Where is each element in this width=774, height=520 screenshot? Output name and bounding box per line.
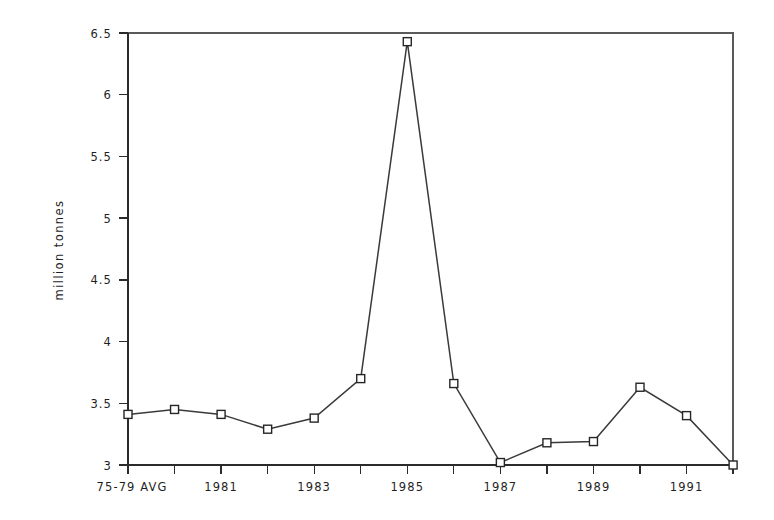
x-tick-label: 1987: [484, 480, 518, 494]
y-tick-label: 6.5: [90, 27, 112, 41]
data-point-marker: [496, 459, 504, 467]
y-axis-tick-labels: 6.5 6 5.5 5 4.5 4 3.5 3: [90, 27, 112, 473]
data-point-marker: [729, 461, 737, 469]
y-tick-label: 6: [104, 88, 112, 102]
line-chart-plot: 6.5 6 5.5 5 4.5 4 3.5 3 million tonnes: [0, 0, 774, 520]
data-point-marker: [683, 412, 691, 420]
y-tick-label: 5: [104, 212, 112, 226]
y-tick-label: 3.5: [90, 397, 112, 411]
x-axis-ticks: [128, 465, 733, 474]
data-point-marker: [357, 375, 365, 383]
x-tick-label: 1983: [297, 480, 331, 494]
chart-container: 6.5 6 5.5 5 4.5 4 3.5 3 million tonnes: [0, 0, 774, 520]
x-tick-label: 1981: [204, 480, 238, 494]
y-tick-label: 4: [104, 335, 112, 349]
series-line-million-tonnes: [128, 42, 733, 465]
plot-frame: [128, 33, 733, 465]
x-tick-label: 1985: [390, 480, 424, 494]
data-point-marker: [589, 438, 597, 446]
x-tick-label: 1989: [577, 480, 611, 494]
x-tick-label: 1991: [670, 480, 704, 494]
data-point-marker: [636, 383, 644, 391]
data-point-marker: [171, 405, 179, 413]
y-axis-title: million tonnes: [52, 200, 66, 301]
data-point-marker: [543, 439, 551, 447]
data-point-marker: [124, 410, 132, 418]
y-tick-label: 3: [104, 459, 112, 473]
y-tick-label: 4.5: [90, 273, 112, 287]
series-markers: [124, 38, 737, 469]
data-point-marker: [217, 410, 225, 418]
data-point-marker: [310, 414, 318, 422]
data-point-marker: [403, 38, 411, 46]
y-tick-label: 5.5: [90, 150, 112, 164]
x-axis-tick-labels: 75-79 AVG 1981 1983 1985 1987 1989 1991: [97, 480, 704, 494]
y-axis-ticks: [119, 33, 128, 465]
data-point-marker: [264, 425, 272, 433]
x-tick-label: 75-79 AVG: [97, 480, 168, 494]
data-point-marker: [450, 380, 458, 388]
